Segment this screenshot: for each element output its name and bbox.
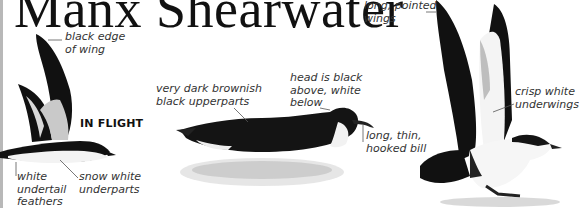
in-flight-tag: IN FLIGHT [80,117,143,130]
label-long-pointed-wings: long, pointed wings [364,0,437,25]
label-dark-upperparts: very dark brownish black upperparts [156,83,262,108]
label-long-thin-hooked-bill: long, thin, hooked bill [366,130,426,155]
label-head-black-above-white-below: head is black above, white below [290,72,362,110]
swimming-bird-illustration [176,108,374,186]
label-black-edge-of-wing: black edge of wing [65,31,125,56]
label-crisp-white-underwings: crisp white underwings [515,86,579,111]
label-snow-white-underparts: snow white underparts [79,171,141,196]
label-white-undertail-feathers: white undertail feathers [17,171,66,209]
